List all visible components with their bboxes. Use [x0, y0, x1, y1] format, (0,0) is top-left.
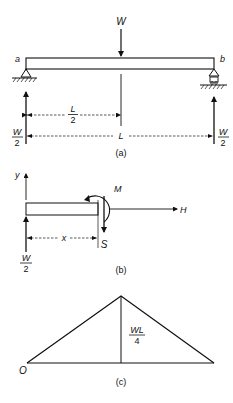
figure-b: y S M H W 2 x (b): [14, 170, 187, 275]
y-axis-label: y: [14, 170, 20, 180]
right-reaction-den: 2: [220, 138, 225, 148]
distance-label: x: [61, 233, 67, 243]
caption-a: (a): [116, 148, 127, 158]
caption-b: (b): [116, 265, 127, 275]
span-arrowhead-right: [208, 134, 213, 138]
span-label: L: [118, 131, 123, 141]
beam-diagram: W a b: [0, 0, 233, 403]
half-span-den: 2: [70, 115, 75, 125]
right-end-label: b: [220, 54, 225, 64]
beam: [26, 58, 214, 69]
peak-label-den: 4: [134, 336, 139, 346]
pin-support-icon: [12, 69, 37, 83]
load-label: W: [116, 16, 127, 27]
left-end-label: a: [15, 54, 20, 64]
moment-arrowhead: [84, 195, 90, 202]
reaction-num: W: [22, 253, 32, 263]
right-reaction-num: W: [219, 127, 229, 137]
caption-c: (c): [116, 377, 127, 387]
axial-label: H: [180, 205, 187, 215]
roller-support-icon: [200, 69, 227, 89]
figure-c: WL 4 O (c): [19, 296, 214, 387]
left-reaction-num: W: [13, 127, 23, 137]
half-span-arrowhead-left: [27, 113, 32, 117]
left-reaction-den: 2: [14, 138, 19, 148]
distance-arrowhead-right: [92, 236, 97, 240]
peak-label-num: WL: [130, 325, 144, 335]
half-span-num: L: [70, 104, 75, 114]
figure-a: W a b: [12, 16, 229, 158]
origin-label: O: [19, 365, 27, 376]
moment-label: M: [114, 184, 122, 194]
shear-label: S: [101, 239, 108, 250]
reaction-den: 2: [23, 264, 28, 274]
beam-segment: [26, 203, 98, 215]
